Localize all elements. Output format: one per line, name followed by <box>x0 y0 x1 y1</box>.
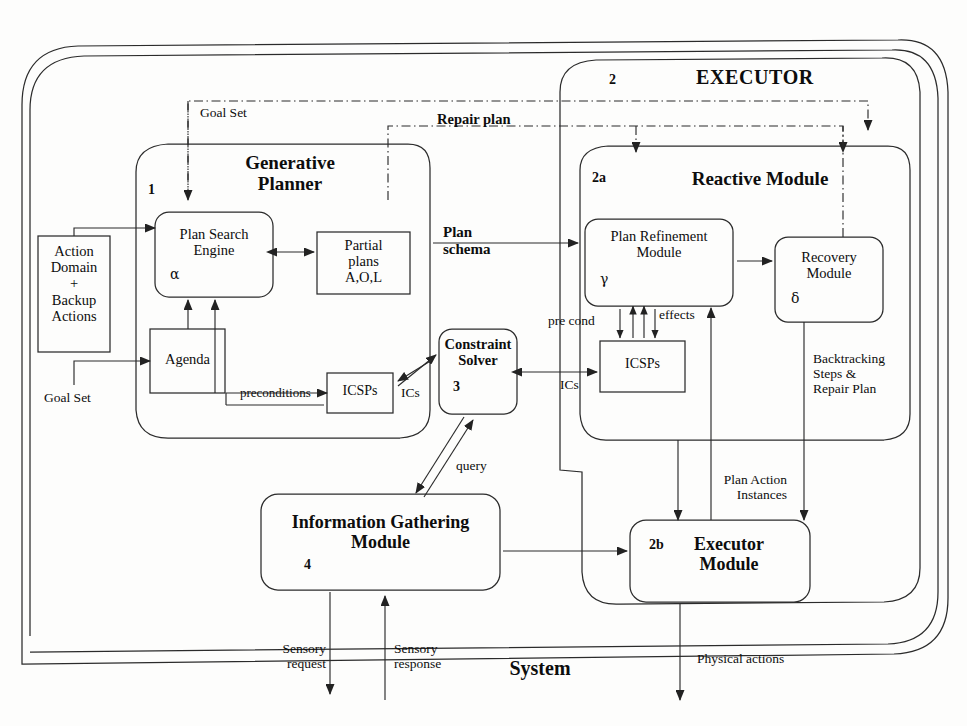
physical-actions-label: Physical actions <box>697 652 784 667</box>
backtracking-label: Backtracking Steps & Repair Plan <box>813 352 885 397</box>
executor-container-outline <box>560 58 920 604</box>
query-label: query <box>456 459 487 474</box>
generative-planner-title: Generative Planner <box>190 152 390 195</box>
pre-cond-label: pre cond <box>548 314 595 329</box>
plan-schema-label: Plan schema <box>443 224 491 257</box>
icsps-planner-label: ICSPs <box>327 383 393 399</box>
plan-action-instances-label: Plan Action Instances <box>692 473 787 503</box>
constraint-solver-to-icsps <box>398 360 432 381</box>
constraint-solver-number: 3 <box>453 379 460 395</box>
plan-refinement-label: Plan Refinement Module <box>585 228 733 260</box>
reactive-module-number: 2a <box>592 170 606 186</box>
plan-search-engine-symbol: α <box>170 266 179 282</box>
ics-planner-label: ICs <box>401 386 420 401</box>
action-domain-to-plan-search <box>74 228 155 236</box>
goal-set-top-label: Goal Set <box>200 106 247 121</box>
constraint-solver-label: Constraint Solver <box>436 336 520 368</box>
effects-label: effects <box>659 308 695 323</box>
generative-planner-number: 1 <box>148 182 155 198</box>
goal-set-left-label: Goal Set <box>44 391 91 406</box>
repair-plan-label: Repair plan <box>437 112 510 128</box>
agenda-label: Agenda <box>150 351 225 367</box>
icsps-reactive-label: ICSPs <box>600 356 685 372</box>
system-title: System <box>465 657 615 679</box>
sensory-request-label: Sensory request <box>268 642 326 672</box>
executor-number: 2 <box>609 72 616 88</box>
executor-module-number: 2b <box>649 537 664 553</box>
information-gathering-number: 4 <box>304 557 311 573</box>
diagram-canvas: EXECUTOR 2 Generative Planner 1 Reactive… <box>0 0 967 726</box>
plan-refinement-symbol: γ <box>600 271 608 287</box>
plan-search-engine-label: Plan Search Engine <box>155 226 273 258</box>
action-domain-label: Action Domain + Backup Actions <box>38 243 110 324</box>
ics-reactive-label: ICs <box>560 378 579 393</box>
goal-set-to-agenda <box>74 361 150 385</box>
partial-plans-label: Partial plans A,O,L <box>317 237 410 286</box>
recovery-module-symbol: δ <box>791 290 799 306</box>
information-gathering-label: Information Gathering Module <box>261 512 500 552</box>
executor-title: EXECUTOR <box>640 66 870 88</box>
recovery-module-label: Recovery Module <box>775 249 883 281</box>
executor-module-label: Executor Module <box>648 534 810 574</box>
reactive-module-title: Reactive Module <box>650 168 870 189</box>
preconditions-label: preconditions <box>240 386 311 400</box>
sensory-response-label: Sensory response <box>394 642 441 672</box>
